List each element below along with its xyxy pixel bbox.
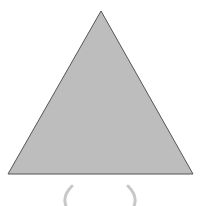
diagram-canvas	[0, 0, 206, 206]
left-parenthesis	[65, 186, 72, 206]
triangle-shape	[8, 11, 193, 174]
right-parenthesis	[128, 186, 135, 206]
